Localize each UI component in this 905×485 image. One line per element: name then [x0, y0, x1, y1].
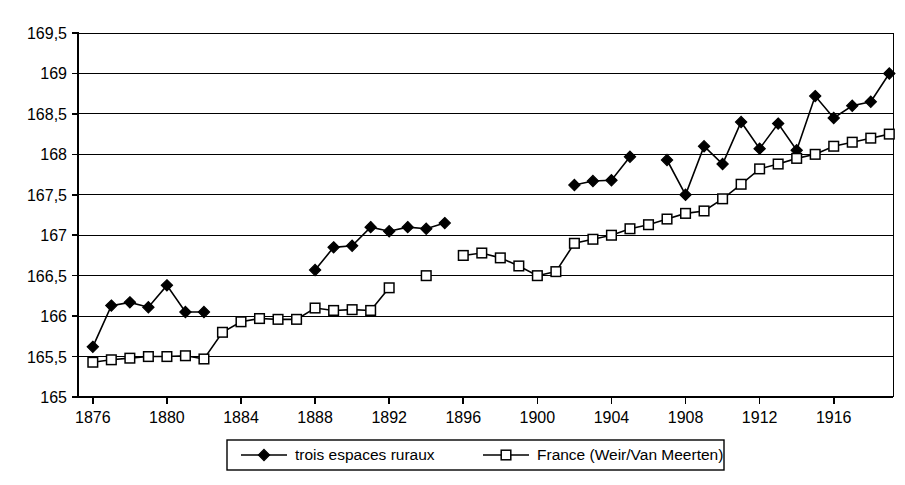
- data-point-square: [236, 317, 246, 327]
- y-tick-label-1: 165,5: [27, 349, 67, 366]
- data-point-square: [421, 271, 431, 281]
- chart-legend: trois espaces rurauxFrance (Weir/Van Mee…: [227, 440, 724, 470]
- x-tick-label-3: 1888: [297, 409, 333, 426]
- x-tick-label-0: 1876: [75, 409, 111, 426]
- data-point-square: [329, 306, 339, 316]
- data-point-square: [570, 239, 580, 249]
- data-point-diamond: [754, 143, 765, 154]
- data-point-square: [366, 306, 376, 316]
- data-point-square: [588, 234, 598, 244]
- line-chart: 165165,5166166,5167167,5168168,5169169,5…: [0, 0, 905, 485]
- data-point-square: [218, 327, 228, 337]
- series-1: [87, 68, 895, 353]
- y-tick-label-3: 166,5: [27, 268, 67, 285]
- data-point-square: [273, 315, 283, 325]
- x-tick-label-5: 1896: [445, 409, 481, 426]
- data-point-square: [551, 267, 561, 277]
- y-tick-label-4: 167: [40, 227, 67, 244]
- data-point-square: [662, 214, 672, 224]
- x-tick-label-9: 1912: [742, 409, 778, 426]
- data-point-diamond: [865, 96, 876, 107]
- data-point-diamond: [87, 341, 98, 352]
- data-point-diamond: [402, 222, 413, 233]
- data-point-square: [310, 303, 320, 313]
- data-point-square: [458, 251, 468, 261]
- data-point-diamond: [680, 189, 691, 200]
- data-point-square: [829, 141, 839, 151]
- legend-label-1: trois espaces ruraux: [295, 446, 435, 463]
- x-tick-label-10: 1916: [816, 409, 852, 426]
- series-2-line-segment-3: [463, 134, 889, 276]
- data-point-diamond: [736, 116, 747, 127]
- x-tick-label-8: 1908: [668, 409, 704, 426]
- data-point-square: [607, 230, 617, 240]
- x-tick-label-6: 1900: [520, 409, 556, 426]
- data-point-square: [496, 253, 506, 263]
- y-tick-label-0: 165: [40, 389, 67, 406]
- y-tick-label-8: 169: [40, 65, 67, 82]
- data-point-square: [514, 261, 524, 271]
- chart-container: 165165,5166166,5167167,5168168,5169169,5…: [0, 0, 905, 485]
- data-point-square: [181, 351, 191, 361]
- data-point-square: [644, 220, 654, 230]
- legend-label-2: France (Weir/Van Meerten): [537, 446, 723, 463]
- data-point-square: [755, 164, 765, 174]
- data-point-diamond: [124, 297, 135, 308]
- data-point-square: [533, 271, 543, 281]
- y-tick-label-9: 169,5: [27, 25, 67, 42]
- x-tick-label-1: 1880: [149, 409, 185, 426]
- data-point-square: [477, 248, 487, 258]
- data-series-group: [87, 68, 895, 367]
- data-point-square: [736, 179, 746, 189]
- data-point-diamond: [439, 217, 450, 228]
- gridlines-group: [78, 33, 893, 397]
- data-point-square: [144, 352, 154, 362]
- series-1-line-segment-3: [574, 157, 630, 185]
- data-point-square: [792, 154, 802, 164]
- data-point-square: [107, 355, 117, 365]
- data-point-square: [884, 129, 894, 139]
- axes-group: [72, 32, 893, 404]
- series-1-line-segment-4: [667, 73, 889, 194]
- y-tick-label-7: 168,5: [27, 106, 67, 123]
- data-point-square: [162, 352, 172, 362]
- data-point-diamond: [661, 154, 672, 165]
- data-point-square: [199, 354, 209, 364]
- data-point-square: [88, 357, 98, 367]
- data-point-square: [699, 206, 709, 216]
- legend-marker-square: [501, 450, 511, 460]
- x-tick-label-4: 1892: [371, 409, 407, 426]
- data-point-square: [681, 209, 691, 219]
- y-tick-label-6: 168: [40, 146, 67, 163]
- data-point-diamond: [569, 179, 580, 190]
- data-point-square: [847, 137, 857, 147]
- data-point-square: [347, 305, 357, 315]
- data-point-square: [625, 224, 635, 234]
- data-point-square: [718, 194, 728, 204]
- series-2: [88, 129, 894, 367]
- data-point-diamond: [847, 100, 858, 111]
- data-point-square: [255, 314, 265, 324]
- data-point-diamond: [587, 175, 598, 186]
- data-point-square: [773, 159, 783, 169]
- data-point-square: [866, 133, 876, 143]
- data-point-diamond: [106, 300, 117, 311]
- data-point-square: [125, 353, 135, 363]
- data-point-square: [384, 283, 394, 293]
- data-point-diamond: [773, 118, 784, 129]
- x-tick-label-2: 1884: [223, 409, 259, 426]
- x-tick-label-7: 1904: [594, 409, 630, 426]
- y-tick-label-2: 166: [40, 308, 67, 325]
- data-point-square: [810, 150, 820, 160]
- y-tick-label-5: 167,5: [27, 187, 67, 204]
- data-point-square: [292, 315, 302, 325]
- data-point-diamond: [421, 223, 432, 234]
